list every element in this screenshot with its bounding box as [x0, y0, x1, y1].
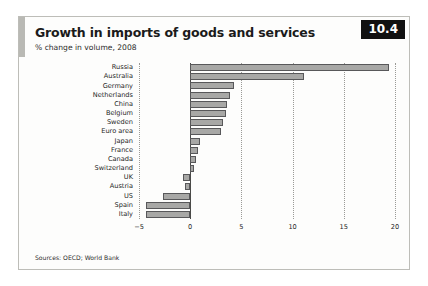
bar — [190, 101, 227, 108]
bar — [183, 174, 190, 181]
gridline-10 — [293, 63, 294, 219]
bar — [190, 73, 304, 80]
figure-panel: Growth in imports of goods and services … — [18, 16, 410, 270]
category-label: Austria — [110, 183, 133, 190]
bar — [190, 128, 221, 135]
category-label: Australia — [104, 73, 133, 80]
bar — [190, 119, 223, 126]
x-tick-label: 20 — [391, 223, 399, 231]
figure-number-badge: 10.4 — [361, 20, 405, 39]
bar — [190, 82, 234, 89]
x-tick-label: 5 — [239, 223, 243, 231]
category-label: Spain — [115, 202, 133, 209]
category-label: Canada — [108, 156, 133, 163]
category-label: Italy — [119, 211, 133, 218]
gridline--5 — [139, 63, 140, 219]
chart-subtitle: % change in volume, 2008 — [35, 43, 137, 52]
bar — [185, 183, 190, 190]
category-label: US — [124, 193, 133, 200]
gridline-20 — [395, 63, 396, 219]
category-label: Euro area — [101, 128, 133, 135]
screenshot-root: Growth in imports of goods and services … — [0, 0, 428, 286]
category-label: Russia — [112, 64, 133, 71]
bar — [146, 202, 190, 209]
bar — [190, 165, 194, 172]
bar — [190, 138, 200, 145]
gridline-5 — [241, 63, 242, 219]
bar — [146, 211, 190, 218]
bars-area — [139, 63, 395, 219]
category-label: Switzerland — [95, 165, 133, 172]
category-label: China — [114, 101, 133, 108]
x-tick-label: 15 — [340, 223, 348, 231]
category-label: Belgium — [106, 110, 133, 117]
x-tick-label: 0 — [188, 223, 192, 231]
bar — [190, 147, 198, 154]
category-label: UK — [124, 174, 133, 181]
category-label: Sweden — [107, 119, 133, 126]
page-title: Growth in imports of goods and services — [35, 25, 315, 40]
x-tick-label: 10 — [288, 223, 296, 231]
bar — [190, 156, 196, 163]
x-tick-label: −5 — [134, 223, 144, 231]
bar — [190, 110, 226, 117]
category-label: Germany — [103, 83, 133, 90]
source-note: Sources: OECD; World Bank — [35, 254, 119, 261]
bar — [190, 64, 389, 71]
category-label: Japan — [115, 138, 133, 145]
bar — [163, 193, 191, 200]
category-label: France — [111, 147, 133, 154]
gridline-15 — [344, 63, 345, 219]
title-accent-bar — [19, 17, 25, 57]
category-label: Netherlands — [93, 92, 133, 99]
bar — [190, 92, 230, 99]
category-axis-labels: RussiaAustraliaGermanyNetherlandsChinaBe… — [35, 63, 139, 219]
chart-plot-area: RussiaAustraliaGermanyNetherlandsChinaBe… — [35, 63, 395, 249]
